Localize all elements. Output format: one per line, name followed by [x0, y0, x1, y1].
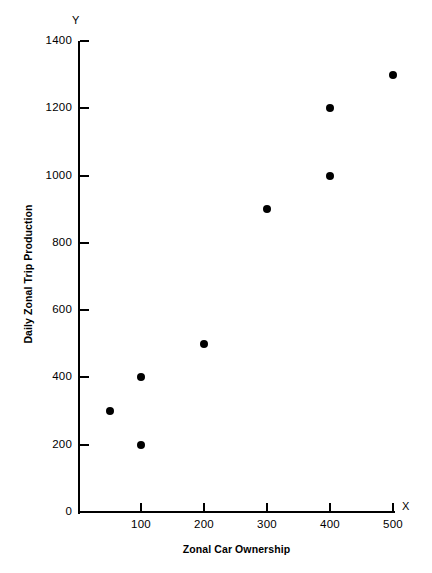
x-tick-mark — [266, 503, 268, 512]
data-point — [389, 71, 397, 79]
y-axis-title: Daily Zonal Trip Production — [22, 184, 34, 364]
data-point — [106, 407, 114, 415]
y-tick-mark — [80, 376, 89, 378]
x-tick-mark — [140, 503, 142, 512]
y-axis-letter: Y — [72, 14, 79, 26]
y-tick-mark — [80, 242, 89, 244]
y-tick-mark — [80, 175, 89, 177]
y-tick-label: 1000 — [30, 169, 72, 183]
y-tick-label: 400 — [30, 370, 72, 384]
x-tick-label: 200 — [181, 518, 227, 530]
y-tick-label-text: 0 — [30, 505, 72, 517]
y-tick-label-text: 400 — [30, 370, 72, 382]
y-tick-mark — [80, 40, 89, 42]
y-tick-label-text: 1400 — [30, 34, 72, 46]
y-tick-label: 600 — [30, 303, 72, 317]
x-tick-label: 400 — [307, 518, 353, 530]
x-tick-mark — [329, 503, 331, 512]
x-tick-label: 100 — [118, 518, 164, 530]
data-point — [137, 441, 145, 449]
scatter-plot-figure: Y X 0200400600800100012001400 1002003004… — [0, 0, 432, 573]
y-tick-label-text: 1000 — [30, 169, 72, 181]
y-tick-mark — [80, 309, 89, 311]
x-tick-label: 500 — [370, 518, 416, 530]
y-tick-mark — [80, 444, 89, 446]
data-point — [137, 373, 145, 381]
y-tick-label-text: 1200 — [30, 101, 72, 113]
data-point — [326, 104, 334, 112]
data-point — [326, 172, 334, 180]
y-tick-mark — [80, 511, 89, 513]
y-tick-label: 1200 — [30, 101, 72, 115]
y-tick-label: 200 — [30, 438, 72, 452]
data-point — [200, 340, 208, 348]
y-tick-label-text: 600 — [30, 303, 72, 315]
y-tick-label: 800 — [30, 236, 72, 250]
y-tick-label-text: 200 — [30, 438, 72, 450]
x-tick-mark — [203, 503, 205, 512]
x-tick-mark — [392, 503, 394, 512]
y-tick-mark — [80, 107, 89, 109]
y-tick-label: 0 — [30, 505, 72, 519]
data-point — [263, 205, 271, 213]
y-tick-label-text: 800 — [30, 236, 72, 248]
x-axis-line — [78, 511, 395, 513]
x-axis-title: Zonal Car Ownership — [78, 543, 395, 555]
x-tick-label: 300 — [244, 518, 290, 530]
plot-area: Y X 0200400600800100012001400 1002003004… — [0, 0, 432, 573]
y-tick-label: 1400 — [30, 34, 72, 48]
x-axis-letter: X — [402, 500, 409, 512]
